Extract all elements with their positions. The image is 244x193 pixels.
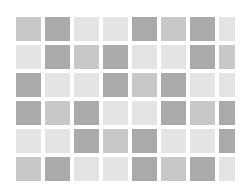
grid-cell [219, 73, 235, 97]
grid-cell [45, 129, 70, 153]
grid-cell [74, 17, 99, 41]
grid-cell [103, 17, 128, 41]
grid-cell [45, 101, 70, 125]
grid-cell [190, 73, 215, 97]
tile-grid [16, 17, 235, 181]
grid-cell [16, 73, 41, 97]
grid-cell [45, 45, 70, 69]
grid-cell [16, 101, 41, 125]
grid-cell [16, 45, 41, 69]
grid-cell [219, 129, 235, 153]
grid-cell [219, 17, 235, 41]
grid-cell [16, 129, 41, 153]
grid-cell [45, 17, 70, 41]
grid-cell [74, 73, 99, 97]
grid-cell [190, 157, 215, 181]
grid-cell [74, 101, 99, 125]
grid-cell [161, 101, 186, 125]
grid-cell [132, 17, 157, 41]
grid-cell [74, 129, 99, 153]
grid-cell [161, 17, 186, 41]
grid-cell [74, 157, 99, 181]
grid-cell [103, 73, 128, 97]
grid-cell [190, 45, 215, 69]
grid-cell [190, 17, 215, 41]
grid-cell [219, 101, 235, 125]
grid-cell [132, 45, 157, 69]
grid-cell [16, 157, 41, 181]
grid-cell [74, 45, 99, 69]
grid-cell [16, 17, 41, 41]
grid-cell [190, 101, 215, 125]
grid-cell [219, 45, 235, 69]
grid-cell [45, 157, 70, 181]
grid-cell [132, 73, 157, 97]
grid-cell [219, 157, 235, 181]
grid-cell [132, 101, 157, 125]
grid-cell [161, 45, 186, 69]
grid-cell [103, 101, 128, 125]
grid-cell [190, 129, 215, 153]
grid-cell [103, 45, 128, 69]
grid-cell [161, 73, 186, 97]
grid-cell [161, 129, 186, 153]
grid-cell [45, 73, 70, 97]
grid-cell [103, 157, 128, 181]
grid-cell [132, 157, 157, 181]
grid-cell [103, 129, 128, 153]
grid-cell [161, 157, 186, 181]
grid-cell [132, 129, 157, 153]
